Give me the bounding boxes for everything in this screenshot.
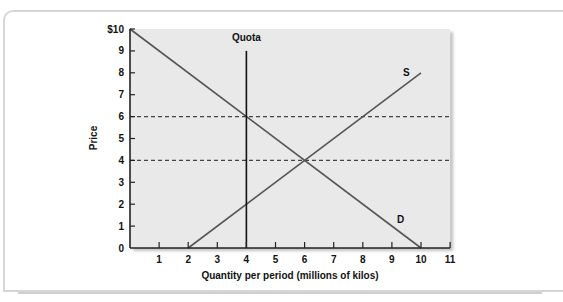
y-tick-label: 8: [118, 67, 124, 78]
label-s: S: [403, 67, 410, 78]
label-quota: Quota: [232, 32, 261, 43]
x-tick-label: 8: [360, 254, 366, 265]
x-tick-label: 1: [156, 254, 162, 265]
x-tick-label: 9: [389, 254, 395, 265]
y-tick-label: 3: [118, 177, 124, 188]
y-tick-label: 6: [118, 111, 124, 122]
x-tick-label: 6: [302, 254, 308, 265]
x-tick-label: 10: [415, 254, 427, 265]
label-d: D: [397, 214, 404, 225]
y-tick-label: 1: [118, 221, 124, 232]
y-axis-title: Price: [88, 125, 99, 150]
x-axis-title: Quantity per period (millions of kilos): [201, 270, 378, 281]
x-tick-label: 11: [445, 254, 456, 265]
y-tick-label: $10: [107, 24, 124, 35]
x-tick-label: 4: [244, 254, 250, 265]
y-tick-label: 0: [118, 243, 124, 254]
x-tick-label: 7: [331, 254, 337, 265]
x-tick-label: 2: [185, 254, 191, 265]
x-tick-label: 5: [273, 254, 279, 265]
y-tick-label: 2: [118, 199, 124, 210]
x-tick-label: 3: [215, 254, 221, 265]
y-tick-label: 5: [118, 133, 124, 144]
y-tick-label: 4: [118, 155, 124, 166]
y-tick-label: 7: [118, 89, 124, 100]
y-tick-label: 9: [118, 45, 124, 56]
